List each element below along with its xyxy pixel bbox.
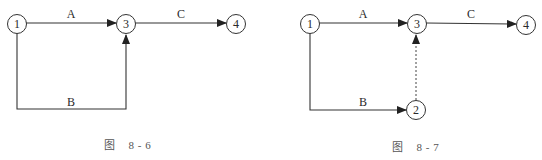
edge-c: C xyxy=(426,7,516,24)
network-diagram-8-7: A B C 1 3 4 2 xyxy=(271,0,542,160)
figure-caption: 图 8 - 7 xyxy=(392,138,439,154)
figure-8-7: A B C 1 3 4 2 xyxy=(271,0,542,160)
edge-a-label: A xyxy=(67,7,76,21)
node-4-label: 4 xyxy=(523,18,529,32)
node-3-label: 3 xyxy=(414,17,420,31)
node-4-label: 4 xyxy=(233,17,239,31)
node-1: 1 xyxy=(8,15,27,34)
node-3-label: 3 xyxy=(123,17,129,31)
edge-b-label: B xyxy=(67,95,75,109)
figure-8-6: A B C 1 3 4 图 8 - 6 xyxy=(0,0,271,160)
node-3: 3 xyxy=(408,15,427,34)
edge-b: B xyxy=(17,33,126,109)
edge-a: A xyxy=(26,7,116,23)
node-1: 1 xyxy=(301,15,320,34)
node-1-label: 1 xyxy=(14,17,20,31)
node-4: 4 xyxy=(517,16,536,35)
node-2: 2 xyxy=(407,101,426,120)
node-4: 4 xyxy=(227,15,246,34)
edge-c-label: C xyxy=(467,7,475,21)
edge-b-label: B xyxy=(359,95,367,109)
edge-b: B xyxy=(310,33,406,110)
edge-a-label: A xyxy=(359,7,368,21)
edge-c-label: C xyxy=(177,7,185,21)
edge-c: C xyxy=(135,7,226,23)
figure-caption: 图 8 - 6 xyxy=(104,136,151,152)
node-2-label: 2 xyxy=(413,103,419,117)
node-1-label: 1 xyxy=(307,17,313,31)
edge-a: A xyxy=(319,7,407,23)
node-3: 3 xyxy=(117,15,136,34)
